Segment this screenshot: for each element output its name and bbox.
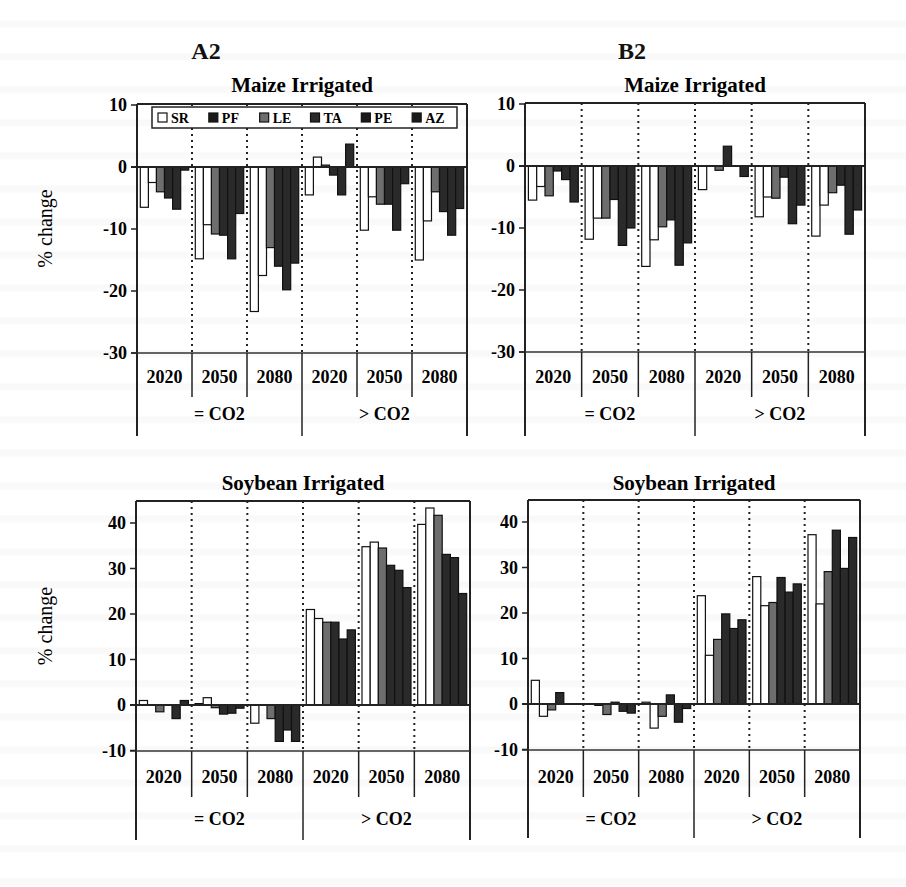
- b2-soy-bar-le-3: [714, 639, 722, 704]
- a2-maize-bar-sr-1: [195, 167, 203, 259]
- b2-maize-bar-ta-1: [610, 166, 618, 200]
- b2-soy-chart-title: Soybean Irrigated: [613, 471, 776, 495]
- b2-soy-bar-ta-0: [556, 693, 564, 704]
- a2-maize-legend-label-ta: TA: [324, 111, 343, 126]
- a2-maize-bar-pe-3: [338, 167, 346, 195]
- b2-maize-bar-le-0: [545, 166, 553, 196]
- b2-maize-bar-sr-4: [755, 166, 763, 217]
- a2-soy-ytick-label: 20: [108, 604, 126, 624]
- b2-maize-bar-le-2: [658, 166, 666, 227]
- a2-maize-legend-label-pe: PE: [374, 111, 392, 126]
- b2-maize-bar-az-3: [740, 166, 748, 177]
- b2-maize-bar-pe-5: [845, 166, 853, 234]
- b2-maize-ytick-label: -30: [491, 342, 515, 362]
- b2-soy-bar-pf-3: [705, 655, 713, 704]
- b2-maize-bar-le-5: [828, 166, 836, 193]
- a2-maize-category-label: 2080: [422, 367, 458, 387]
- a2-maize-ytick-label: 10: [109, 95, 127, 115]
- a2-maize-ytick-label: -30: [103, 343, 127, 363]
- a2-maize-bar-ta-1: [220, 167, 228, 235]
- a2-soy-ytick-label: 30: [108, 559, 126, 579]
- b2-maize-category-label: 2050: [592, 367, 628, 387]
- b2-soy-bar-ta-5: [832, 530, 840, 704]
- b2-soy-ytick-label: 30: [500, 558, 518, 578]
- b2-maize-bar-pf-2: [650, 166, 658, 240]
- a2-maize-legend-label-az: AZ: [425, 111, 444, 126]
- b2-maize-bar-pe-4: [788, 166, 796, 224]
- b2-maize-category-label: 2080: [819, 367, 855, 387]
- a2-maize-legend-label-sr: SR: [171, 111, 190, 126]
- a2-maize-group-label: > CO2: [359, 404, 410, 424]
- b2-soy-bar-pe-3: [730, 629, 738, 705]
- b2-soy-bar-sr-3: [697, 596, 705, 704]
- a2-soy-bar-sr-2: [251, 705, 259, 723]
- b2-soy-category-label: 2020: [538, 767, 574, 787]
- a2-maize-category-label: 2020: [312, 367, 348, 387]
- b2-maize-bar-ta-3: [723, 146, 731, 166]
- b2-soy-bar-le-5: [824, 572, 832, 704]
- a2-maize-bar-ta-3: [330, 167, 338, 175]
- a2-soy-bar-ta-1: [220, 705, 228, 714]
- b2-soy-category-label: 2050: [759, 767, 795, 787]
- a2-soy-y-axis-label: % change: [34, 587, 57, 665]
- b2-maize-group-label: = CO2: [585, 404, 636, 424]
- a2-soy-bar-ta-2: [275, 705, 283, 741]
- b2-maize-bar-pf-0: [537, 166, 545, 187]
- a2-maize-legend-swatch-az: [412, 113, 421, 122]
- a2-maize-legend-swatch-le: [260, 113, 269, 122]
- b2-soy-bar-ta-4: [777, 578, 785, 705]
- a2-maize-bar-pf-4: [368, 167, 376, 197]
- a2-maize-bar-az-2: [291, 167, 299, 263]
- b2-maize-chart-title: Maize Irrigated: [624, 73, 766, 97]
- a2-maize-bar-pe-0: [173, 167, 181, 209]
- a2-maize-ytick-label: -10: [103, 219, 127, 239]
- b2-maize-bar-pf-5: [820, 166, 828, 205]
- a2-maize-legend-swatch-sr: [158, 113, 167, 122]
- a2-soy-bar-pf-5: [426, 508, 434, 705]
- a2-maize-bar-pf-0: [148, 167, 156, 183]
- b2-maize-bar-le-4: [772, 166, 780, 198]
- b2-maize-bar-pf-4: [763, 166, 771, 197]
- a2-soy-bar-az-2: [292, 705, 300, 741]
- b2-maize-bar-az-0: [570, 166, 578, 202]
- b2-maize-bar-az-1: [627, 166, 635, 228]
- a2-maize-bar-ta-0: [165, 167, 173, 198]
- a2-maize-legend-swatch-pe: [361, 113, 370, 122]
- a2-maize-bar-sr-5: [415, 167, 423, 260]
- a2-soy-bar-pe-4: [395, 570, 403, 705]
- a2-maize-bar-pe-4: [393, 167, 401, 230]
- a2-soy-bar-sr-5: [418, 524, 426, 705]
- b2-maize-bar-az-2: [683, 166, 691, 243]
- figure-canvas: Maize Irrigated100-10-20-30% change20202…: [0, 0, 906, 887]
- b2-soy-bar-pe-1: [619, 704, 627, 711]
- a2-maize-legend-swatch-pf: [209, 113, 218, 122]
- a2-soy-bar-le-5: [434, 515, 442, 705]
- b2-soy-ytick-label: 0: [509, 694, 518, 714]
- b2-soy-bar-sr-4: [753, 577, 761, 704]
- a2-maize-bar-ta-2: [275, 167, 283, 266]
- b2-maize-bar-pf-1: [593, 166, 601, 218]
- a2-soy-bar-az-3: [347, 630, 355, 705]
- a2-maize-bar-az-3: [346, 144, 354, 167]
- a2-maize-bar-le-1: [211, 167, 219, 234]
- b2-maize-category-label: 2020: [535, 367, 571, 387]
- b2-maize-bar-le-1: [602, 166, 610, 218]
- b2-soy-ytick-label: 20: [500, 603, 518, 623]
- a2-soy-bar-le-3: [323, 622, 331, 705]
- a2-maize-bar-pf-5: [423, 167, 431, 221]
- a2-maize-bar-le-5: [431, 167, 439, 192]
- b2-soy-category-label: 2020: [704, 767, 740, 787]
- b2-soy-ytick-label: -10: [494, 740, 518, 760]
- b2-soy-bar-pe-4: [785, 592, 793, 704]
- a2-soy-bar-pe-5: [450, 558, 458, 705]
- a2-maize-ytick-label: -20: [103, 281, 127, 301]
- b2-soy-bar-sr-5: [808, 535, 816, 704]
- b2-maize-bar-ta-2: [667, 166, 675, 220]
- b2-maize-bar-az-4: [797, 166, 805, 205]
- a2-maize-bar-pf-2: [258, 167, 266, 276]
- a2-soy-bar-ta-3: [331, 622, 339, 705]
- b2-maize-category-label: 2080: [649, 367, 685, 387]
- a2-soy-ytick-label: -10: [102, 741, 126, 761]
- a2-soy-bar-pf-4: [370, 542, 378, 705]
- b2-maize-ytick-label: 10: [497, 94, 515, 114]
